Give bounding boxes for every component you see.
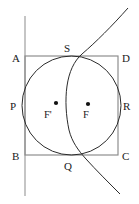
label-point-a: A <box>12 52 20 64</box>
focus-point-f-dot <box>86 102 90 106</box>
label-focus-f-prime: F' <box>44 109 52 120</box>
focus-point-f-prime-dot <box>54 101 58 105</box>
label-focus-f: F <box>83 109 89 120</box>
parabola-curve <box>66 8 128 194</box>
figure-canvas: A D B C P R S Q F F' <box>0 0 139 204</box>
label-point-q: Q <box>64 160 72 172</box>
label-point-s: S <box>64 42 70 54</box>
label-point-b: B <box>12 150 19 162</box>
geometry-figure: A D B C P R S Q F F' <box>0 0 139 204</box>
label-point-p: P <box>10 100 16 112</box>
label-point-r: R <box>123 100 131 112</box>
label-point-c: C <box>122 150 129 162</box>
inscribed-circle <box>22 56 121 155</box>
rectangle-abcd <box>25 56 118 155</box>
label-point-d: D <box>122 52 130 64</box>
